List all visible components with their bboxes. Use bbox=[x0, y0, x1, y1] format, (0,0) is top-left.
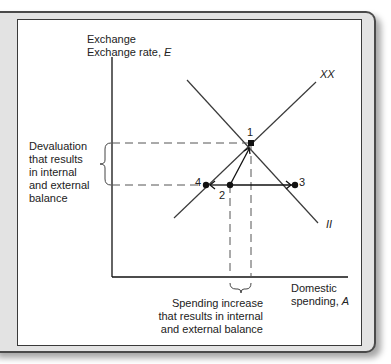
x-axis-label: Domestic spending, A bbox=[291, 282, 349, 308]
point-2 bbox=[227, 182, 233, 188]
left-annotation-line: and external bbox=[29, 179, 90, 192]
left-annotation-line: in internal bbox=[29, 166, 90, 179]
ii-curve-label: II bbox=[326, 218, 332, 231]
left-annotation-line: that results bbox=[29, 153, 90, 166]
x-axis-var: A bbox=[342, 295, 349, 307]
left-annotation: Devaluation that results in internal and… bbox=[29, 140, 90, 205]
point-3 bbox=[292, 182, 298, 188]
bottom-annotation-line: and external balance bbox=[158, 323, 263, 336]
bottom-annotation-line: that results in internal bbox=[158, 310, 263, 323]
point-4-label: 4 bbox=[195, 176, 201, 189]
point-2-label: 2 bbox=[219, 189, 225, 202]
point-4 bbox=[203, 182, 209, 188]
x-axis-label-line1: Domestic bbox=[291, 282, 349, 295]
bottom-annotation: Spending increase that results in intern… bbox=[158, 297, 263, 336]
ii-curve bbox=[187, 80, 318, 223]
point-1-label: 1 bbox=[247, 126, 253, 139]
y-axis-var: E bbox=[164, 46, 171, 58]
bottom-brace bbox=[230, 283, 251, 293]
point-1 bbox=[248, 140, 254, 146]
y-axis-label-text: Exchange rate, bbox=[87, 46, 161, 58]
point-3-label: 3 bbox=[299, 176, 305, 189]
y-axis-label: Exchange Exchange rate, E bbox=[87, 33, 171, 59]
xx-curve-label: XX bbox=[320, 68, 335, 81]
left-annotation-line: balance bbox=[29, 192, 90, 205]
arrow-2-to-1 bbox=[230, 149, 249, 185]
bottom-annotation-line: Spending increase bbox=[158, 297, 263, 310]
left-annotation-line: Devaluation bbox=[29, 140, 90, 153]
left-brace bbox=[100, 143, 111, 185]
x-axis-label-line2: spending, bbox=[291, 295, 339, 307]
